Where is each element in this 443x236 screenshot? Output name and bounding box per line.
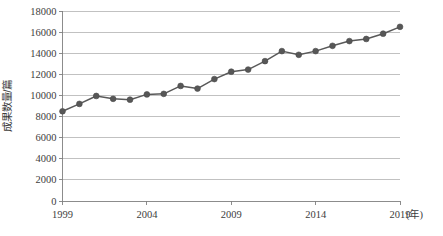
y-tick-label: 0 <box>51 196 56 207</box>
data-point-marker: 2014: 14200 <box>313 48 319 54</box>
y-tick-label: 6000 <box>36 132 57 143</box>
data-point-marker: 2011: 13250 <box>262 58 268 64</box>
line-chart: 1999: 85002000: 92002001: 99502002: 9680… <box>0 0 443 236</box>
data-point-marker: 2008: 11550 <box>211 76 217 82</box>
data-point-marker: 2005: 10150 <box>161 91 167 97</box>
data-point-marker: 2012: 14200 <box>279 48 285 54</box>
data-point-marker: 2016: 15150 <box>346 38 352 44</box>
data-point-marker: 2006: 10900 <box>178 83 184 89</box>
data-point-marker: 2013: 13850 <box>296 52 302 58</box>
data-point-marker: 2007: 10650 <box>195 86 201 92</box>
y-axis-title: 成果数量/篇 <box>1 80 13 133</box>
y-tick-label: 16000 <box>30 27 56 38</box>
x-axis-unit-label: (年) <box>406 208 423 221</box>
data-point-marker: 2019: 16500 <box>397 24 403 30</box>
data-point-marker: 2010: 12450 <box>245 67 251 73</box>
x-tick-label: 2009 <box>221 209 242 220</box>
y-tick-label: 14000 <box>30 48 56 59</box>
data-point-marker: 2004: 10100 <box>144 91 150 97</box>
data-point-marker: 2015: 14700 <box>330 43 336 49</box>
data-point-marker: 2017: 15350 <box>363 36 369 42</box>
y-tick-label: 8000 <box>36 111 57 122</box>
x-tick-label: 2004 <box>136 209 158 220</box>
data-point-marker: 2018: 15850 <box>380 31 386 37</box>
data-point-marker: 1999: 8500 <box>60 108 66 114</box>
data-point-marker: 2003: 9600 <box>127 97 133 103</box>
y-tick-label: 12000 <box>30 69 56 80</box>
y-tick-label: 18000 <box>30 6 56 17</box>
y-tick-label: 2000 <box>36 174 57 185</box>
y-tick-label: 4000 <box>36 153 57 164</box>
x-tick-label: 1999 <box>52 209 73 220</box>
chart-figure: 1999: 85002000: 92002001: 99502002: 9680… <box>0 0 443 236</box>
data-point-marker: 2001: 9950 <box>93 93 99 99</box>
data-point-marker: 2000: 9200 <box>76 101 82 107</box>
data-point-marker: 2002: 9680 <box>110 96 116 102</box>
y-tick-label: 10000 <box>30 90 56 101</box>
data-point-marker: 2009: 12250 <box>228 69 234 75</box>
x-tick-label: 2014 <box>305 209 327 220</box>
